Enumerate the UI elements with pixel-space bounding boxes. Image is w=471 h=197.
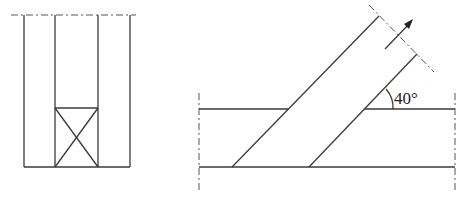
inclined-end-centerline <box>369 5 434 72</box>
angle-label: 40° <box>394 89 418 108</box>
inclined-member-edge-1 <box>232 16 379 167</box>
diagram-canvas: 40° <box>0 0 471 197</box>
left-figure <box>11 15 136 167</box>
right-figure: 40° <box>199 5 455 192</box>
angle-arc <box>386 89 393 109</box>
